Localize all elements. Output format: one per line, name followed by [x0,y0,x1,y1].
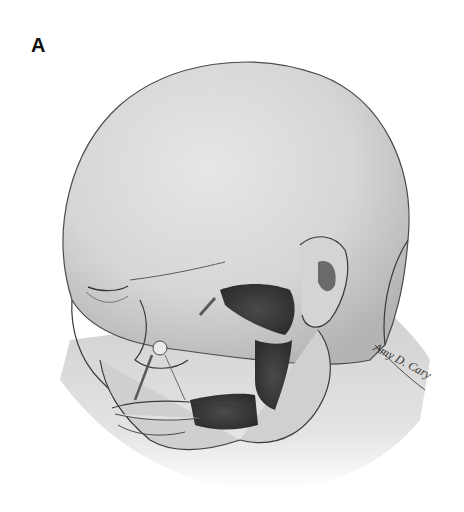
skull [63,62,409,364]
infant-head-illustration [0,0,464,512]
